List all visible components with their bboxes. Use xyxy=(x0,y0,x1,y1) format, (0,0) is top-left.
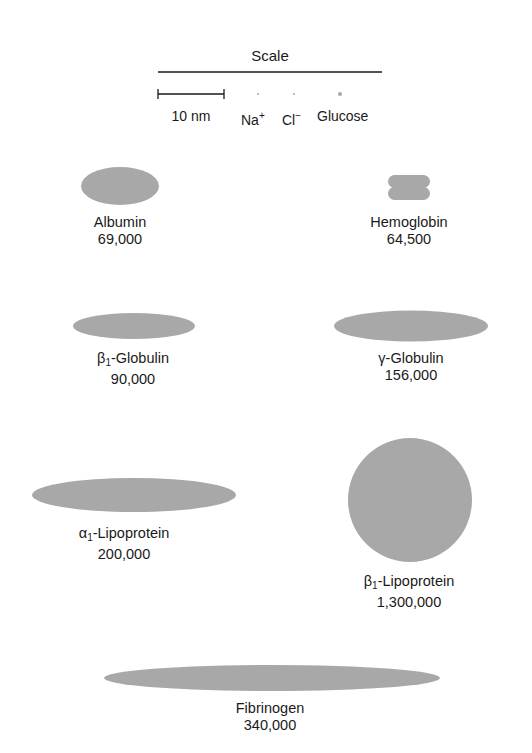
hemoglobin-mw: 64,500 xyxy=(370,231,447,248)
scale-bar-label: 10 nm xyxy=(163,108,219,124)
hemoglobin-name: Hemoglobin xyxy=(370,214,447,231)
beta1-globulin-text: -Globulin xyxy=(111,350,169,366)
beta1-lipoprotein-text: -Lipoprotein xyxy=(378,573,455,589)
albumin-shape xyxy=(81,167,159,205)
gamma-globulin-text: -Globulin xyxy=(386,350,444,366)
alpha1-lipoprotein-mw: 200,000 xyxy=(79,546,170,563)
albumin-mw: 69,000 xyxy=(94,231,146,248)
na-ion-charge: + xyxy=(259,110,265,121)
beta1-globulin-label: β1-Globulin 90,000 xyxy=(97,350,169,388)
fibrinogen-label: Fibrinogen 340,000 xyxy=(236,700,305,734)
glucose-dot xyxy=(338,92,342,96)
cl-ion-label: Cl− xyxy=(282,108,301,128)
scale-title: Scale xyxy=(250,48,290,64)
alpha1-lipoprotein-name: α1-Lipoprotein xyxy=(79,525,170,546)
scale-bar-10nm xyxy=(158,89,224,99)
beta1-lipoprotein-shape xyxy=(348,438,472,562)
na-ion-name: Na xyxy=(241,112,259,128)
fibrinogen-mw: 340,000 xyxy=(236,717,305,734)
gamma-globulin-name: γ-Globulin xyxy=(378,350,443,367)
cl-ion-dot xyxy=(293,93,295,95)
beta1-lipoprotein-mw: 1,300,000 xyxy=(364,594,454,611)
glucose-label: Glucose xyxy=(317,108,368,124)
gamma-globulin-mw: 156,000 xyxy=(378,367,443,384)
gamma-globulin-label: γ-Globulin 156,000 xyxy=(378,350,443,384)
alpha1-lipoprotein-label: α1-Lipoprotein 200,000 xyxy=(79,525,170,563)
gamma-globulin-shape xyxy=(334,311,488,342)
hemoglobin-label: Hemoglobin 64,500 xyxy=(370,214,447,248)
cl-ion-name: Cl xyxy=(282,112,295,128)
cl-ion-charge: − xyxy=(295,110,301,121)
alpha1-lipoprotein-shape xyxy=(32,478,236,512)
alpha1-lipoprotein-text: -Lipoprotein xyxy=(93,525,170,541)
na-ion-label: Na+ xyxy=(241,108,265,128)
beta1-lipoprotein-label: β1-Lipoprotein 1,300,000 xyxy=(364,573,454,611)
albumin-name: Albumin xyxy=(94,214,146,231)
beta1-globulin-shape xyxy=(73,313,195,339)
fibrinogen-name: Fibrinogen xyxy=(236,700,305,717)
na-ion-dot xyxy=(257,93,259,95)
beta1-lipoprotein-name: β1-Lipoprotein xyxy=(364,573,454,594)
fibrinogen-shape xyxy=(104,665,440,691)
hemoglobin-shape xyxy=(388,175,430,200)
albumin-label: Albumin 69,000 xyxy=(94,214,146,248)
beta1-globulin-name: β1-Globulin xyxy=(97,350,169,371)
beta1-globulin-mw: 90,000 xyxy=(97,371,169,388)
protein-shapes-canvas xyxy=(0,0,532,753)
